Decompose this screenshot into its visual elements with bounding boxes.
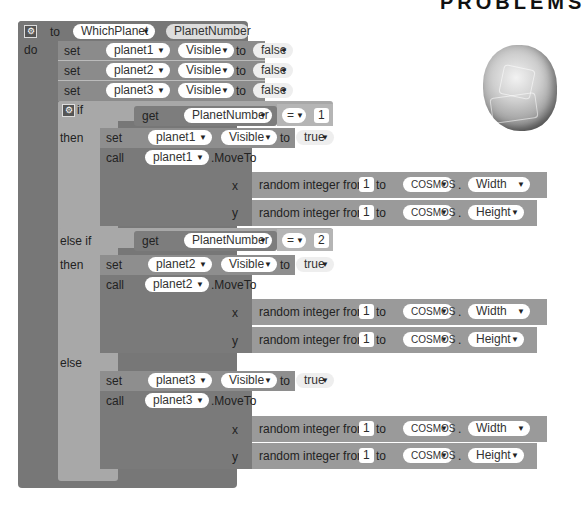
then-label: then [60, 258, 83, 272]
to-label: to [280, 131, 290, 145]
width-dropdown[interactable]: Width▼ [468, 304, 530, 319]
boolean-dropdown[interactable]: false▼ [253, 83, 293, 98]
boolean-dropdown[interactable]: true▼ [296, 257, 334, 272]
from-field[interactable]: 1 [359, 421, 374, 436]
target-dropdown[interactable]: COSMOS▼ [403, 205, 453, 220]
operator-dropdown[interactable]: =▼ [282, 108, 306, 123]
to-label: to [236, 44, 246, 58]
mutator-gear-icon[interactable]: ⚙ [24, 25, 37, 38]
height-dropdown[interactable]: Height▼ [468, 448, 524, 463]
if-label: if [77, 103, 83, 117]
set-label: set [64, 44, 80, 58]
to-label: to [280, 374, 290, 388]
boolean-dropdown[interactable]: false▼ [253, 63, 293, 78]
y-label: y [232, 206, 238, 220]
call-label: call [106, 394, 124, 408]
set-label: set [106, 131, 122, 145]
header-fragment: PROBLEMS [440, 0, 585, 14]
number-field[interactable]: 1 [314, 108, 329, 123]
set-label: set [106, 374, 122, 388]
chevron-down-icon: ▼ [142, 24, 150, 39]
set-label: set [106, 258, 122, 272]
property-dropdown[interactable]: Visible▼ [221, 130, 277, 145]
dot-label: . [458, 305, 461, 319]
width-dropdown[interactable]: Width▼ [468, 421, 530, 436]
to-label: to [376, 449, 386, 463]
random-integer-label: random integer from [259, 305, 367, 319]
from-field[interactable]: 1 [359, 177, 374, 192]
boolean-dropdown[interactable]: true▼ [296, 373, 334, 388]
component-dropdown[interactable]: planet1▼ [148, 130, 212, 145]
operator-dropdown[interactable]: =▼ [282, 233, 306, 248]
call-label: call [106, 151, 124, 165]
random-integer-label: random integer from [259, 422, 367, 436]
number-field[interactable]: 2 [314, 233, 329, 248]
param-planetnumber[interactable]: PlanetNumber [166, 24, 249, 39]
set-label: set [64, 64, 80, 78]
width-dropdown[interactable]: Width▼ [468, 177, 530, 192]
from-field[interactable]: 1 [359, 205, 374, 220]
variable-dropdown[interactable]: PlanetNumber▼ [184, 108, 272, 123]
y-label: y [232, 334, 238, 348]
set-label: set [64, 84, 80, 98]
dot-label: . [458, 178, 461, 192]
height-dropdown[interactable]: Height▼ [468, 332, 524, 347]
component-dropdown[interactable]: planet2▼ [145, 277, 209, 292]
target-dropdown[interactable]: COSMOS▼ [403, 332, 453, 347]
component-dropdown[interactable]: planet2▼ [106, 63, 170, 78]
property-dropdown[interactable]: Visible▼ [178, 63, 234, 78]
property-dropdown[interactable]: Visible▼ [221, 373, 277, 388]
elseif-label: else if [60, 234, 91, 248]
property-dropdown[interactable]: Visible▼ [221, 257, 277, 272]
component-dropdown[interactable]: planet1▼ [145, 150, 209, 165]
dot-label: . [458, 422, 461, 436]
target-dropdown[interactable]: COSMOS▼ [403, 448, 453, 463]
variable-dropdown[interactable]: PlanetNumber▼ [184, 233, 272, 248]
x-label: x [232, 179, 238, 193]
from-field[interactable]: 1 [359, 304, 374, 319]
from-field[interactable]: 1 [359, 448, 374, 463]
planet-image [483, 45, 557, 131]
boolean-dropdown[interactable]: true▼ [296, 130, 334, 145]
component-dropdown[interactable]: planet2▼ [148, 257, 212, 272]
to-label: to [376, 422, 386, 436]
height-dropdown[interactable]: Height▼ [468, 205, 524, 220]
do-label: do [24, 43, 37, 57]
to-label: to [236, 64, 246, 78]
method-label: .MoveTo [211, 394, 256, 408]
to-label: to [376, 206, 386, 220]
to-label: to [280, 258, 290, 272]
target-dropdown[interactable]: COSMOS▼ [403, 421, 453, 436]
dot-label: . [458, 449, 461, 463]
to-label: to [376, 333, 386, 347]
random-integer-label: random integer from [259, 178, 367, 192]
y-label: y [232, 450, 238, 464]
component-dropdown[interactable]: planet1▼ [106, 43, 170, 58]
from-field[interactable]: 1 [359, 332, 374, 347]
procedure-name-field[interactable]: WhichPlanet▼ [73, 24, 155, 39]
to-label: to [50, 25, 60, 39]
method-label: .MoveTo [211, 151, 256, 165]
x-label: x [232, 306, 238, 320]
to-label: to [376, 178, 386, 192]
property-dropdown[interactable]: Visible▼ [178, 43, 234, 58]
dot-label: . [458, 206, 461, 220]
dot-label: . [458, 333, 461, 347]
property-dropdown[interactable]: Visible▼ [178, 83, 234, 98]
target-dropdown[interactable]: COSMOS▼ [403, 304, 453, 319]
method-label: .MoveTo [211, 278, 256, 292]
component-dropdown[interactable]: planet3▼ [145, 393, 209, 408]
get-label: get [142, 234, 159, 248]
component-dropdown[interactable]: planet3▼ [148, 373, 212, 388]
then-label: then [60, 131, 83, 145]
call-label: call [106, 278, 124, 292]
target-dropdown[interactable]: COSMOS▼ [403, 177, 453, 192]
mutator-gear-icon[interactable]: ⚙ [62, 104, 75, 117]
else-label: else [60, 356, 82, 370]
random-integer-label: random integer from [259, 449, 367, 463]
random-integer-label: random integer from [259, 333, 367, 347]
to-label: to [236, 84, 246, 98]
component-dropdown[interactable]: planet3▼ [106, 83, 170, 98]
x-label: x [232, 423, 238, 437]
boolean-dropdown[interactable]: false▼ [253, 43, 293, 58]
